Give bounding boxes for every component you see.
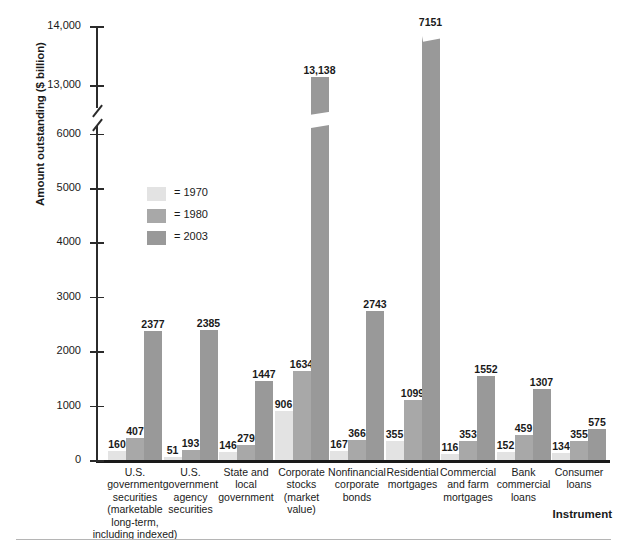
bar-2003[interactable]: 7151 [422, 32, 440, 460]
bar-value-label: 407 [126, 425, 144, 437]
bar-value-label: 1447 [252, 368, 275, 380]
bar-value-label: 116 [442, 441, 459, 453]
bar-1980[interactable]: 1634 [293, 371, 311, 460]
bar-value-label: 7151 [419, 16, 442, 28]
bar-group: 1673662743 [330, 20, 384, 460]
y-axis-tick: 4000 [90, 242, 104, 244]
bar-1980[interactable]: 193 [182, 450, 200, 460]
y-axis-tick-label: 14,000 [29, 19, 81, 31]
bar-value-label: 366 [348, 427, 366, 439]
bar-group: 1524591307 [497, 20, 551, 460]
bar-value-label: 575 [588, 416, 606, 428]
bar-1970[interactable]: 160 [108, 451, 126, 460]
bar-2003[interactable]: 1447 [255, 381, 273, 460]
bar-1970[interactable]: 906 [275, 411, 293, 460]
bar-1980[interactable]: 459 [515, 435, 533, 460]
legend-swatch [147, 187, 166, 201]
bar-1970[interactable]: 116 [441, 454, 459, 460]
y-axis-tick: 6000 [90, 134, 104, 136]
y-axis-tick-label: 2000 [29, 344, 81, 356]
bar-group: 35510997151 [386, 20, 440, 460]
bar-group: 1163531552 [441, 20, 495, 460]
bar-value-label: 1307 [530, 376, 553, 388]
bar-value-label: 355 [386, 428, 404, 440]
y-axis-tick: 13,000 [90, 85, 104, 87]
x-axis-spine [96, 460, 610, 463]
legend-label: = 1980 [174, 208, 208, 220]
bar-1980[interactable]: 279 [237, 445, 255, 460]
y-axis-tick-label: 3000 [29, 290, 81, 302]
y-axis-title: Amount outstanding ($ billion) [34, 19, 46, 229]
bottom-divider [16, 539, 611, 540]
bar-1970[interactable]: 51 [164, 457, 182, 460]
bar-1980[interactable]: 353 [459, 441, 477, 460]
legend-label: = 1970 [174, 186, 208, 198]
bar-1980[interactable]: 355 [570, 441, 588, 460]
bar-value-label: 1552 [474, 363, 497, 375]
bar-1980[interactable]: 1099 [404, 400, 422, 460]
y-axis-tick: 1000 [90, 406, 104, 408]
bar-value-label: 2385 [197, 317, 220, 329]
bar-2003[interactable]: 2377 [144, 331, 162, 460]
bar-value-label: 2743 [363, 298, 386, 310]
bar-value-label: 146 [219, 439, 237, 451]
y-axis-spine-upper [96, 26, 98, 108]
category-label: Consumer loans [543, 466, 615, 491]
bar-value-label: 160 [108, 438, 126, 450]
bar-value-label: 167 [330, 438, 348, 450]
bar-2003[interactable]: 575 [588, 429, 606, 460]
bar-1970[interactable]: 355 [386, 441, 404, 460]
bar-1970[interactable]: 167 [330, 451, 348, 460]
bar-2003[interactable]: 1552 [477, 376, 495, 460]
bar-value-label: 134 [552, 440, 570, 452]
legend-swatch [147, 231, 166, 245]
bar-1980[interactable]: 366 [348, 440, 366, 460]
bar-group: 906163413,138 [275, 20, 329, 460]
y-axis-tick: 5000 [90, 188, 104, 190]
bar-value-label: 2377 [141, 318, 164, 330]
y-axis-tick-label: 4000 [29, 235, 81, 247]
y-axis-tick: 2000 [90, 351, 104, 353]
bar-group: 134355575 [552, 20, 606, 460]
bar-value-label: 51 [167, 444, 179, 456]
bar-value-label: 279 [237, 432, 255, 444]
bar-1970[interactable]: 134 [552, 453, 570, 460]
bar-2003[interactable]: 1307 [533, 389, 551, 460]
bar-1970[interactable]: 152 [497, 452, 515, 460]
chart-figure: Amount outstanding ($ billion) 14,00013,… [0, 0, 626, 549]
y-axis-tick-label: 6000 [29, 127, 81, 139]
bar-value-label: 193 [182, 437, 200, 449]
bar-value-label: 355 [570, 428, 588, 440]
y-axis-tick-label: 13,000 [29, 78, 81, 90]
y-axis-tick-label: 0 [29, 453, 81, 465]
bar-value-label: 152 [497, 439, 515, 451]
bar-value-label: 906 [275, 398, 293, 410]
bar-2003[interactable]: 2385 [200, 330, 218, 460]
bar-group: 1462791447 [219, 20, 273, 460]
y-axis-tick: 0 [90, 460, 104, 462]
y-axis-tick: 14,000 [90, 26, 104, 28]
bar-1970[interactable]: 146 [219, 452, 237, 460]
bar-2003[interactable]: 13,138 [311, 77, 329, 460]
bar-value-label: 459 [515, 422, 533, 434]
x-axis-title: Instrument [553, 508, 612, 520]
y-axis-tick-label: 1000 [29, 399, 81, 411]
y-axis-tick: 3000 [90, 297, 104, 299]
bar-value-label: 353 [459, 428, 477, 440]
legend-swatch [147, 209, 166, 223]
y-axis-tick-label: 5000 [29, 181, 81, 193]
y-axis-spine-lower [96, 126, 98, 462]
bar-1980[interactable]: 407 [126, 438, 144, 460]
bar-2003[interactable]: 2743 [366, 311, 384, 460]
legend-label: = 2003 [174, 230, 208, 242]
